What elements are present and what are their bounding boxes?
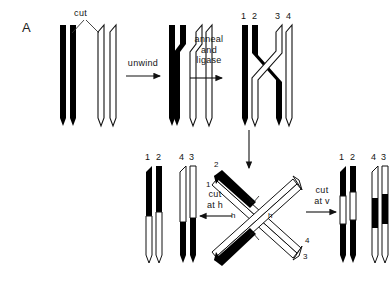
chi-junction (212, 170, 302, 266)
anneal-line-2: and (186, 45, 232, 56)
product-h-strand-1: 1 (145, 152, 150, 162)
product-v-strand-1: 1 (339, 152, 344, 162)
product-h-strand-4: 4 (179, 152, 184, 162)
label-cut-at-v: cut at v (303, 185, 341, 206)
product-h-cut (146, 166, 196, 263)
product-h-strand-3: 3 (189, 152, 194, 162)
cut-at-h-line-2: at h (196, 200, 234, 211)
junction-arm-3: 3 (303, 252, 308, 261)
product-h-strand-2: 2 (156, 152, 161, 162)
figure-panel-a: A cut unwind anneal and ligase 1 2 3 4 1… (0, 0, 390, 281)
junction-arm-1: 1 (206, 180, 211, 189)
parental-duplex-white (98, 25, 116, 126)
label-anneal-and-ligase: anneal and ligase (186, 34, 232, 66)
cut-at-v-line-2: at v (303, 196, 341, 207)
junction-axis-h-left: h (231, 211, 236, 220)
product-v-strand-3: 3 (381, 152, 386, 162)
junction-axis-v-bottom: v (249, 228, 253, 237)
label-unwind: unwind (118, 58, 168, 69)
label-cut: cut (74, 8, 87, 18)
junction-axis-v-top: v (249, 196, 253, 205)
cut-pointer-lines (72, 20, 99, 33)
junction-arm-2: 2 (214, 160, 219, 169)
product-v-strand-2: 2 (350, 152, 355, 162)
junction-arm-4: 4 (305, 236, 310, 245)
panel-label: A (22, 20, 31, 35)
ligated-junction-structure (242, 25, 292, 126)
parental-duplex-black (60, 25, 76, 126)
cut-at-h-line-1: cut (196, 189, 234, 200)
cut-at-v-line-1: cut (303, 185, 341, 196)
anneal-line-3: ligase (186, 55, 232, 66)
unwound-black-strands (169, 25, 186, 126)
junction-axis-h-right: h (268, 211, 273, 220)
anneal-line-1: anneal (186, 34, 232, 45)
product-v-strand-4: 4 (371, 152, 376, 162)
strand-number-3-ligated: 3 (275, 11, 280, 21)
product-v-cut (340, 166, 388, 263)
label-cut-at-h: cut at h (196, 189, 234, 210)
strand-number-4-ligated: 4 (286, 11, 291, 21)
strand-number-1-ligated: 1 (241, 11, 246, 21)
strand-number-2-ligated: 2 (252, 11, 257, 21)
